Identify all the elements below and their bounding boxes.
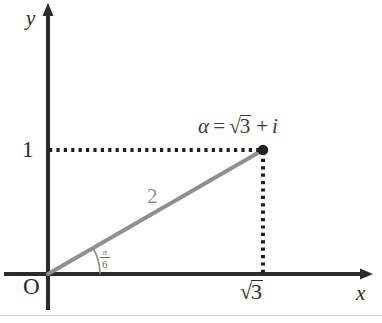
segment-length-label: 2	[147, 186, 158, 207]
alpha-symbol: α	[198, 114, 209, 138]
fraction-pi-over-6: π 6	[100, 247, 110, 271]
plus-symbol: +	[256, 114, 268, 138]
y-axis-arrowhead	[43, 3, 54, 16]
point-label-alpha: α=√3+i	[198, 115, 278, 137]
x-axis-arrowhead	[360, 269, 373, 280]
point-alpha	[258, 145, 268, 155]
y-tick-label-1: 1	[22, 138, 34, 161]
angle-arc	[93, 248, 100, 274]
sqrt-radicand-alpha: 3	[240, 115, 252, 137]
argand-plane-figure	[0, 0, 382, 323]
axis-label-y: y	[26, 8, 35, 29]
angle-label-pi-over-6: π 6	[100, 247, 110, 271]
sqrt-group: √3	[240, 280, 263, 303]
fraction-numerator: π	[100, 247, 110, 258]
equals-symbol: =	[212, 114, 226, 138]
sqrt-radicand: 3	[251, 280, 263, 303]
bottom-divider	[0, 315, 382, 316]
fraction-denominator: 6	[100, 258, 110, 271]
imaginary-unit: i	[272, 114, 278, 138]
radius-segment	[48, 150, 263, 274]
x-tick-label-sqrt3: √3	[240, 280, 263, 303]
sqrt-group-alpha: √3	[229, 115, 251, 137]
axis-label-x: x	[356, 283, 365, 304]
origin-label: O	[23, 275, 40, 298]
